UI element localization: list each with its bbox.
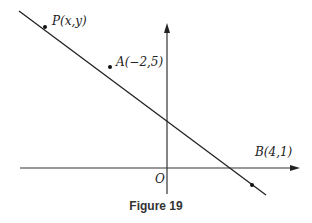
figure-caption: Figure 19	[0, 199, 312, 213]
point-p-label: P(x,y)	[52, 14, 87, 28]
y-axis-arrow-icon	[164, 23, 170, 33]
coordinate-diagram	[0, 0, 312, 223]
point-a-label: A(−2,5)	[116, 55, 163, 69]
x-axis-arrow-icon	[290, 165, 300, 171]
point-p	[43, 25, 47, 29]
point-b-label: B(4,1)	[255, 145, 292, 159]
point-b	[250, 183, 254, 187]
point-a	[108, 65, 112, 69]
origin-label: O	[155, 172, 165, 186]
